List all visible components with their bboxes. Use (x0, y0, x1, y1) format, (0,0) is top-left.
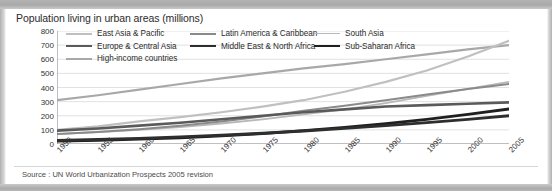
left-border-rail (0, 9, 6, 184)
bottom-border-band (0, 184, 552, 191)
legend-item: High-income countries (66, 54, 177, 63)
legend-item: Middle East & North Africa (190, 42, 315, 51)
legend-item: East Asia & Pacific (66, 29, 164, 38)
legend-color-swatch (190, 33, 216, 35)
series-line (57, 116, 509, 141)
y-axis-tick-label: 800 (41, 27, 54, 36)
legend-item: Europe & Central Asia (66, 42, 177, 51)
y-axis-tick-label: 400 (41, 83, 54, 92)
top-border-band (0, 0, 552, 9)
legend-color-swatch (66, 45, 92, 47)
legend-item: Sub-Saharan Africa (314, 42, 415, 51)
y-axis-tick-label: 500 (41, 69, 54, 78)
chart-title: Population living in urban areas (millio… (16, 12, 203, 24)
y-axis-tick-label: 300 (41, 97, 54, 106)
y-axis-tick-label: 200 (41, 111, 54, 120)
chart-figure: Population living in urban areas (millio… (0, 0, 552, 191)
y-axis-tick-label: 0 (50, 140, 54, 149)
legend-label: Europe & Central Asia (97, 42, 177, 51)
legend-color-swatch (66, 33, 92, 35)
legend-label: Sub-Saharan Africa (345, 42, 415, 51)
y-axis-tick-label: 100 (41, 125, 54, 134)
legend-color-swatch (314, 33, 340, 34)
right-border-rail (547, 9, 552, 184)
legend-color-swatch (314, 45, 340, 47)
y-axis-tick-label: 600 (41, 55, 54, 64)
y-axis-tick-label: 700 (41, 41, 54, 50)
legend-label: Middle East & North Africa (221, 42, 315, 51)
legend-item: South Asia (314, 29, 384, 38)
legend-item: Latin America & Caribbean (190, 29, 317, 38)
legend-color-swatch (190, 45, 216, 47)
y-axis-labels: 0100200300400500600700800 (26, 31, 54, 144)
x-axis-tick-label: 2005 (507, 135, 526, 154)
legend-label: East Asia & Pacific (97, 29, 164, 38)
source-note: Source : UN World Urbanization Prospects… (22, 170, 213, 179)
legend-label: Latin America & Caribbean (221, 29, 317, 38)
source-divider (14, 166, 538, 167)
chart-legend: East Asia & PacificLatin America & Carib… (66, 29, 486, 63)
legend-label: High-income countries (97, 54, 177, 63)
legend-label: South Asia (345, 29, 384, 38)
legend-color-swatch (66, 58, 92, 60)
